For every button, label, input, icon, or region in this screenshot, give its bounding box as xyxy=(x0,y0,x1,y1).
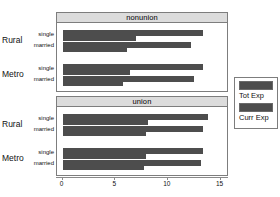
bar-curr-exp xyxy=(63,69,130,75)
row-label-married: married xyxy=(34,126,54,132)
row-label-single: single xyxy=(38,65,54,71)
axis-line xyxy=(56,177,228,178)
x-tick-label: 10 xyxy=(163,180,170,187)
legend-entry-curr-exp[interactable]: Curr Exp xyxy=(239,103,273,123)
panel-plot-area-nonunion xyxy=(56,23,228,92)
bar-curr-exp xyxy=(63,35,137,41)
legend-label-0: Tot Exp xyxy=(239,90,273,101)
panel-strip-label-union: union xyxy=(56,96,228,107)
chart-canvas: nonunionRuralsinglemarriedMetrosinglemar… xyxy=(0,0,280,197)
x-tick-label: 0 xyxy=(60,180,64,187)
row-label-married: married xyxy=(34,42,54,48)
bar-group-container xyxy=(57,107,227,175)
group-label-nonunion-Metro: Metro xyxy=(2,69,24,79)
bar-group-container xyxy=(57,23,227,91)
legend-swatch-1 xyxy=(239,103,273,112)
row-label-married: married xyxy=(34,160,54,166)
group-label-union-Metro: Metro xyxy=(2,153,24,163)
bar-curr-exp xyxy=(63,153,146,159)
row-label-single: single xyxy=(38,115,54,121)
bar-curr-exp xyxy=(63,164,144,170)
legend-swatch-0 xyxy=(239,81,273,90)
row-label-single: single xyxy=(38,31,54,37)
x-tick-label: 5 xyxy=(112,180,116,187)
chart-panel-nonunion: nonunion xyxy=(56,12,228,92)
panel-strip-label-nonunion: nonunion xyxy=(56,12,228,23)
bar-curr-exp xyxy=(63,119,148,125)
row-label-single: single xyxy=(38,149,54,155)
x-axis: 051015 xyxy=(0,177,280,197)
group-label-nonunion-Rural: Rural xyxy=(2,35,22,45)
bar-curr-exp xyxy=(63,80,123,86)
legend: Tot ExpCurr Exp xyxy=(234,77,278,129)
bar-curr-exp xyxy=(63,130,146,136)
legend-entry-tot-exp[interactable]: Tot Exp xyxy=(239,81,273,101)
chart-panel-union: union xyxy=(56,96,228,176)
row-label-married: married xyxy=(34,76,54,82)
legend-label-1: Curr Exp xyxy=(239,112,273,123)
panel-plot-area-union xyxy=(56,107,228,176)
x-tick-label: 15 xyxy=(216,180,223,187)
group-label-union-Rural: Rural xyxy=(2,119,22,129)
bar-curr-exp xyxy=(63,46,127,52)
